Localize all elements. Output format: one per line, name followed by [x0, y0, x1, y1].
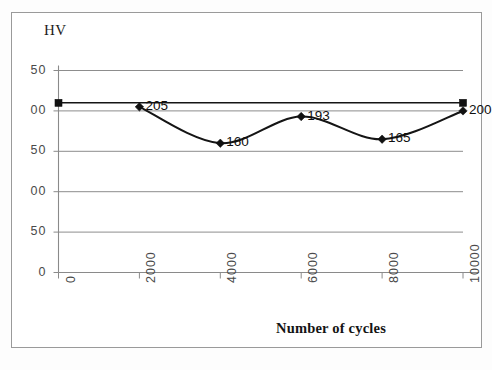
- data-point-label: 160: [226, 134, 249, 149]
- y-tick-label: 50: [7, 224, 47, 238]
- series-hardness-markers: [135, 103, 467, 148]
- y-tick-label: 0: [7, 265, 47, 279]
- chart-plot-area: [0, 0, 492, 370]
- y-tick-label: 50: [7, 143, 47, 157]
- data-point-label: 200: [469, 102, 492, 117]
- x-tick-label: 0: [64, 275, 78, 283]
- x-tick-label: 10000: [468, 243, 482, 283]
- y-tick-label: 00: [7, 103, 47, 117]
- y-tick-label: 50: [7, 63, 47, 77]
- gridlines: [59, 71, 464, 233]
- x-tick-label: 6000: [306, 251, 320, 283]
- data-point-label: 205: [145, 98, 168, 113]
- chart-svg: [0, 0, 492, 370]
- y-tick-label: 00: [7, 184, 47, 198]
- x-tick-label: 2000: [144, 251, 158, 283]
- data-point-label: 193: [307, 108, 330, 123]
- x-tickmarks: [59, 273, 464, 279]
- x-tick-label: 4000: [225, 251, 239, 283]
- data-point-label: 165: [388, 130, 411, 145]
- x-tick-label: 8000: [387, 251, 401, 283]
